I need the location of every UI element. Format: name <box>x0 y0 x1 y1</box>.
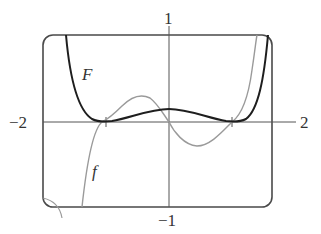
curve-F <box>66 35 268 122</box>
label-curve-F: F <box>82 66 92 83</box>
label-y-top: 1 <box>164 10 173 27</box>
curve-f-tail <box>43 198 62 218</box>
label-curve-f: f <box>92 163 97 180</box>
label-x-left: −2 <box>9 114 27 131</box>
label-x-right: 2 <box>300 114 309 131</box>
label-y-bottom: −1 <box>158 212 176 229</box>
plot-canvas <box>0 0 321 234</box>
